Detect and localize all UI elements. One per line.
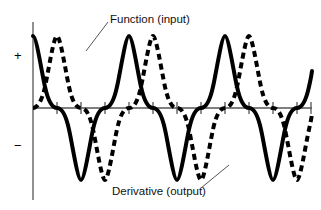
y-axis-negative-label: − — [14, 139, 22, 152]
waveform-figure: + − Function (input) Derivative (output) — [0, 0, 321, 210]
function-input-label: Function (input) — [110, 13, 190, 26]
derivative-output-label: Derivative (output) — [112, 185, 206, 198]
plot-area — [0, 0, 321, 210]
function-leader-line — [86, 22, 108, 51]
y-axis-positive-label: + — [14, 49, 22, 62]
